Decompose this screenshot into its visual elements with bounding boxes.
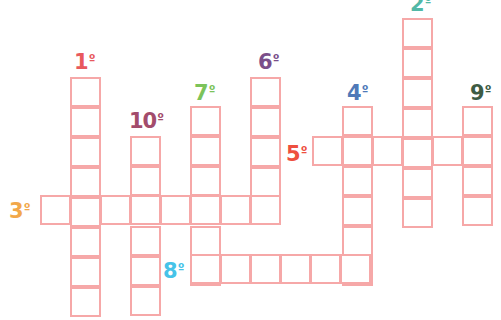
crossword-cell[interactable]: [402, 198, 433, 228]
crossword-cell[interactable]: [70, 137, 101, 167]
crossword-cell[interactable]: [462, 166, 493, 196]
crossword-cell[interactable]: [70, 107, 101, 137]
clue-number-text: 4: [347, 81, 361, 105]
crossword-cell[interactable]: [280, 254, 311, 284]
clue-number-text: 6: [258, 50, 272, 74]
ordinal-indicator: º: [89, 52, 95, 66]
crossword-cell[interactable]: [342, 196, 373, 226]
clue-number-10: 10º: [129, 111, 163, 132]
crossword-cell[interactable]: [250, 77, 281, 107]
crossword-cell[interactable]: [130, 286, 161, 316]
ordinal-indicator: º: [362, 83, 368, 97]
clue-number-5: 5º: [286, 144, 306, 165]
clue-number-text: 7: [194, 81, 208, 105]
crossword-cell[interactable]: [342, 136, 373, 166]
clue-number-9: 9º: [470, 83, 490, 104]
ordinal-indicator: º: [485, 83, 491, 97]
clue-number-text: 9: [470, 81, 484, 105]
crossword-cell[interactable]: [310, 254, 341, 284]
ordinal-indicator: º: [273, 52, 279, 66]
clue-number-text: 5: [286, 142, 300, 166]
crossword-cell[interactable]: [432, 136, 463, 166]
crossword-cell[interactable]: [100, 195, 131, 225]
crossword-cell[interactable]: [190, 195, 221, 225]
crossword-cell[interactable]: [130, 136, 161, 166]
crossword-cell[interactable]: [402, 168, 433, 198]
crossword-cell[interactable]: [160, 195, 191, 225]
clue-number-1: 1º: [74, 52, 94, 73]
crossword-cell[interactable]: [70, 287, 101, 317]
crossword-cell[interactable]: [402, 138, 433, 168]
crossword-cell[interactable]: [70, 197, 101, 227]
ordinal-indicator: º: [24, 201, 30, 215]
clue-number-text: 3: [9, 199, 23, 223]
crossword-cell[interactable]: [130, 256, 161, 286]
crossword-cell[interactable]: [250, 195, 281, 225]
crossword-cell[interactable]: [220, 254, 251, 284]
ordinal-indicator: º: [178, 261, 184, 275]
crossword-cell[interactable]: [190, 254, 221, 284]
crossword-cell[interactable]: [70, 257, 101, 287]
crossword-cell[interactable]: [40, 195, 71, 225]
crossword-cell[interactable]: [70, 167, 101, 197]
crossword-cell[interactable]: [402, 78, 433, 108]
clue-number-text: 10: [129, 109, 156, 133]
crossword-cell[interactable]: [342, 166, 373, 196]
crossword-cell[interactable]: [462, 106, 493, 136]
crossword-cell[interactable]: [250, 254, 281, 284]
crossword-cell[interactable]: [312, 136, 343, 166]
crossword-cell[interactable]: [130, 195, 161, 225]
clue-number-text: 2: [410, 0, 424, 16]
crossword-cell[interactable]: [340, 254, 371, 284]
clue-number-8: 8º: [163, 261, 183, 282]
ordinal-indicator: º: [301, 144, 307, 158]
clue-number-4: 4º: [347, 83, 367, 104]
crossword-cell[interactable]: [250, 107, 281, 137]
clue-number-text: 1: [74, 50, 88, 74]
crossword-cell[interactable]: [462, 196, 493, 226]
crossword-cell[interactable]: [190, 136, 221, 166]
crossword-cell[interactable]: [190, 106, 221, 136]
crossword-board: 1º2º3º4º5º6º7º8º9º10º: [0, 0, 501, 320]
crossword-cell[interactable]: [402, 48, 433, 78]
crossword-cell[interactable]: [190, 166, 221, 196]
crossword-cell[interactable]: [342, 226, 373, 256]
crossword-cell[interactable]: [190, 226, 221, 256]
clue-number-3: 3º: [9, 201, 29, 222]
crossword-cell[interactable]: [462, 136, 493, 166]
ordinal-indicator: º: [425, 0, 431, 8]
clue-number-2: 2º: [410, 0, 430, 15]
clue-number-text: 8: [163, 259, 177, 283]
clue-number-6: 6º: [258, 52, 278, 73]
crossword-cell[interactable]: [70, 227, 101, 257]
clue-number-7: 7º: [194, 83, 214, 104]
crossword-cell[interactable]: [130, 226, 161, 256]
crossword-cell[interactable]: [250, 167, 281, 197]
crossword-cell[interactable]: [250, 137, 281, 167]
crossword-cell[interactable]: [402, 108, 433, 138]
crossword-cell[interactable]: [220, 195, 251, 225]
ordinal-indicator: º: [157, 111, 163, 125]
crossword-cell[interactable]: [342, 106, 373, 136]
ordinal-indicator: º: [209, 83, 215, 97]
crossword-cell[interactable]: [372, 136, 403, 166]
crossword-cell[interactable]: [70, 77, 101, 107]
crossword-cell[interactable]: [130, 166, 161, 196]
crossword-cell[interactable]: [402, 18, 433, 48]
